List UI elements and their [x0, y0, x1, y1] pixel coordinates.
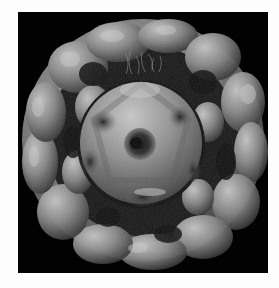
virus-capsid-render	[18, 12, 268, 273]
image-frame	[18, 12, 268, 273]
